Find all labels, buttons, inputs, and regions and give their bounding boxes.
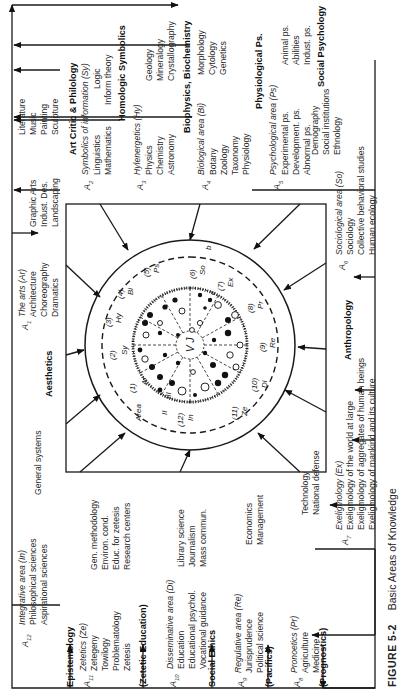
diagram-stage: II III V J (1) Ar Area (2) Sy (3) Hy (4)… — [0, 0, 405, 695]
area-label-a9: A9 — [236, 678, 248, 687]
connector-art-critic: Art Critic & Philology — [68, 63, 78, 155]
a3-col2-item-3: Crystallography — [166, 21, 176, 81]
a11-col1-item-3: Problematology — [111, 611, 121, 671]
a5-col1-item-2: Development. ps. — [291, 108, 301, 175]
a8-col2-item-2: National defense — [311, 451, 321, 516]
a6-col1-item-1: Sociology — [345, 218, 355, 255]
sector-num-3: (3) — [104, 317, 113, 327]
a4-col1-item-4: Physiology — [241, 133, 251, 175]
a3-col1-item-3: Astronomy — [166, 134, 176, 175]
a1-col1-item-2: Choreography — [39, 263, 49, 317]
area-label-a4: A4 — [200, 181, 212, 190]
area-title-a12: Integrative area (In) — [17, 550, 27, 625]
sector-num-2: (2) — [108, 350, 117, 360]
sector-abbr-11: Ze — [240, 407, 249, 416]
mark-b: b — [204, 246, 213, 250]
a3-col1-item-1: Physics — [144, 145, 154, 175]
a1-col2-item-3: Landscaping — [50, 178, 60, 227]
a12-item-2: Aspirational sciences — [39, 544, 49, 625]
a12-item-1: Philosophical sciences — [28, 539, 38, 625]
a10-col2-item-2: Journalism — [187, 525, 197, 567]
a3-col2-item-1: Geology — [144, 49, 154, 81]
a11-col1-item-2: Towilogy — [100, 638, 110, 671]
figure-number: FIGURE 5-2 — [386, 624, 398, 687]
inner-box — [66, 204, 326, 472]
connector-pacifics: (Pacifics) — [264, 646, 274, 687]
area-label-a6: A6 — [337, 261, 349, 270]
a1-col3-item-3: Painting — [39, 104, 49, 135]
a8-col2-item-1: Technology — [300, 472, 310, 515]
sector-abbr-3: Hy — [114, 313, 123, 323]
a6-col2-item-2: Social institutions — [321, 89, 331, 155]
a8-col1-item-1: Agriculture — [300, 632, 310, 673]
a4-col2-item-2: Cytology — [207, 42, 217, 75]
a2-col1-item-2: Mathematics — [103, 126, 113, 175]
a3-col1-item-2: Chemistry — [155, 136, 165, 175]
a11-col2-item-3: Educ. for zetesis — [111, 506, 121, 570]
sector-abbr-12: In — [186, 414, 195, 421]
a6-col2-item-3: Ethnology — [332, 117, 342, 155]
figure-caption: FIGURE 5-2Basic Areas of Knowledge — [386, 488, 398, 687]
a2-col2-item-2: Inform theory — [103, 54, 113, 105]
area-label-a7: A7 — [340, 536, 352, 545]
area-label-a3: A3 — [135, 181, 147, 190]
a5-col2-item-1: Animal ps. — [280, 25, 290, 65]
core-label: V J — [185, 338, 196, 352]
sector-abbr-6: So — [198, 265, 207, 275]
a1-col1-item-3: Dramatics — [50, 278, 60, 317]
area-title-a2: Symbolics of information (Sy) — [80, 63, 90, 175]
sector-num-5: (5) — [142, 267, 151, 277]
a5-col2-item-3: Indust. ps. — [302, 25, 312, 65]
area-label-a5: A5 — [272, 181, 284, 190]
sector-abbr-5: Ps — [152, 264, 161, 273]
area-title-a7: Exeligmology (Ex) — [334, 461, 344, 530]
a4-col2-item-1: Morphology — [196, 30, 206, 75]
sector-abbr-8: Pr — [256, 301, 265, 309]
sector-num-6: (6) — [188, 269, 197, 279]
sector-abbr-4: Bi — [126, 288, 135, 295]
a7-item-2: Exeligmology of aggregates of human bein… — [356, 358, 366, 530]
connector-zetetic-education: (Zetetic Education) — [138, 604, 148, 687]
area-label-a10: A10 — [168, 674, 180, 687]
sector-abbr-1: Ar — [140, 377, 149, 385]
connector-aesthetics: Aesthetics — [44, 351, 54, 397]
a5-col2-item-2: Abilities — [291, 35, 301, 65]
a1-col3-item-1: Literature — [17, 99, 27, 135]
a1-col3-item-4: Sculpture — [50, 99, 60, 135]
a6-col2-item-1: Demography — [310, 106, 320, 155]
a9-col2-item-2: Management — [255, 495, 265, 545]
a4-col1-item-1: Botany — [208, 148, 218, 175]
a11-col1-item-1: Zetegeny — [89, 635, 99, 671]
a10-col1-item-2: Educational psychol. — [187, 590, 197, 669]
a6-col1-item-3: Human ecology — [367, 195, 377, 255]
area-title-a10: Disseminative area (Di) — [165, 580, 175, 669]
connector-homologic: Homologic Symbolics — [117, 25, 127, 121]
a9-col2-item-1: Economics — [244, 503, 254, 545]
a3-col2-item-2: Mineralogy — [155, 39, 165, 81]
a9-col1-item-2: Political science — [255, 612, 265, 673]
a1-col2-item-1: Graphic Arts — [28, 180, 38, 227]
a11-col2-item-2: Environ. cond. — [100, 515, 110, 570]
area-label-a2: A2 — [82, 181, 94, 190]
area-title-a11: Zetetics (Ze) — [78, 623, 88, 671]
area-label-a12: A12 — [20, 634, 32, 647]
area-title-a3: Hylenergetics (Hy) — [132, 104, 142, 175]
connector-biophysics: Biophysics, Biochemistry — [182, 21, 192, 133]
area-title-a5: Psychological area (Ps) — [268, 85, 278, 175]
area-title-a6: Sociological area (So) — [334, 171, 344, 255]
sector-abbr-10: Di — [260, 380, 269, 388]
a11-col2-item-1: Gen. methodology — [89, 500, 99, 570]
connector-physiological: Physiological Ps. — [254, 33, 264, 109]
a10-col1-item-1: Education — [176, 631, 186, 669]
sector-num-4: (4) — [116, 289, 125, 299]
connector-social-ethics: Social Ethics — [207, 630, 217, 687]
mark-c: c — [208, 291, 217, 295]
sector-num-7: (7) — [216, 281, 225, 291]
a7-item-1: Exeligmology of the world at large — [345, 401, 355, 530]
sector-num-8: (8) — [246, 303, 255, 313]
a1-col2-item-2: Indust. Des. — [39, 181, 49, 227]
a10-col2-item-1: Library science — [176, 509, 186, 567]
a4-col1-item-3: Taxonomy — [230, 136, 240, 175]
area-title-a4: Biological area (Bi) — [196, 103, 206, 175]
a8-col1-item-2: Medicine — [311, 639, 321, 673]
